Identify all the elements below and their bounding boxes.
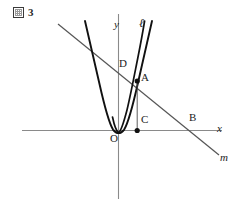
label-curve-ell: ℓ bbox=[139, 17, 144, 29]
label-point-d: D bbox=[119, 58, 127, 69]
label-x-axis: x bbox=[217, 123, 222, 134]
figure-canvas: 3 y ℓ D A C B x O m bbox=[0, 0, 244, 221]
point-c-marker bbox=[135, 128, 140, 133]
label-y-axis: y bbox=[114, 19, 119, 30]
label-point-b: B bbox=[189, 112, 196, 123]
line-m bbox=[58, 24, 219, 155]
geometry-diagram bbox=[0, 0, 244, 221]
label-line-m: m bbox=[220, 152, 228, 163]
label-point-a: A bbox=[141, 72, 149, 83]
point-a-marker bbox=[135, 78, 140, 83]
label-origin: O bbox=[110, 133, 118, 144]
label-point-c: C bbox=[141, 114, 148, 125]
